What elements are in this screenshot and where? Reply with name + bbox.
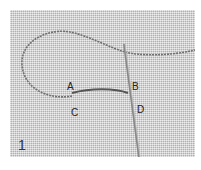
thread-stitch xyxy=(72,89,128,93)
needle xyxy=(124,44,139,157)
point-label-a: A xyxy=(67,82,74,92)
stitch-illustration xyxy=(10,10,195,157)
point-label-b: B xyxy=(132,82,139,92)
embroidery-photo: A B C D 1 xyxy=(10,10,195,157)
thread-loop xyxy=(22,31,195,97)
point-label-d: D xyxy=(137,105,144,115)
point-label-c: C xyxy=(71,108,78,118)
figure-number: 1 xyxy=(18,138,26,152)
